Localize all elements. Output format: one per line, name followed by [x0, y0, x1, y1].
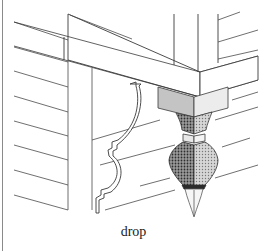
drop-pendant-body: [169, 142, 218, 188]
siding-lines-left: [14, 22, 68, 210]
illustration-caption: drop: [0, 224, 267, 240]
drop-ring: [182, 185, 206, 189]
drop-collar: [183, 134, 205, 143]
scroll-bracket: [96, 82, 141, 213]
cornice-right: [200, 56, 258, 97]
cornice-left: [64, 14, 200, 97]
illustration-frame: drop: [0, 0, 267, 251]
drop-finial-point: [185, 189, 203, 217]
drop-illustration: [0, 0, 267, 251]
